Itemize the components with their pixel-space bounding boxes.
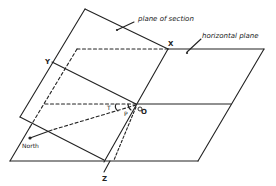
label-point-y: Y xyxy=(44,58,51,66)
leader-dot xyxy=(116,29,118,31)
diagram-canvas: plane of section horizontal plane X Y Z … xyxy=(0,0,276,186)
label-angle-t: T xyxy=(106,104,111,111)
north-arrow-head xyxy=(28,136,31,139)
label-point-x: X xyxy=(168,40,174,48)
plane-of-section xyxy=(20,9,168,172)
north-arrow xyxy=(30,130,52,138)
label-point-o: O xyxy=(141,108,147,116)
leader-dot xyxy=(186,52,188,54)
geometry-diagram: plane of section horizontal plane X Y Z … xyxy=(0,0,276,186)
label-horizontal-plane: horizontal plane xyxy=(202,32,259,40)
label-plane-of-section: plane of section xyxy=(137,15,194,23)
horizontal-plane-leader xyxy=(187,39,201,52)
label-angle-p: P xyxy=(124,110,128,117)
label-point-z: Z xyxy=(102,175,107,183)
label-north: North xyxy=(22,142,39,149)
